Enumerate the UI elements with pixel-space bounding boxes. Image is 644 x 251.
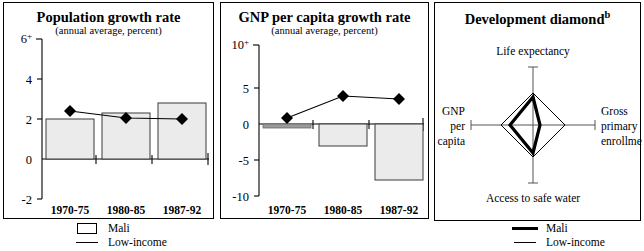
y-label-4: 4	[26, 73, 33, 87]
axis-label-gross-primary-enrollment: Gross	[601, 105, 628, 117]
legend-row-mali: Mali	[72, 221, 167, 235]
panel-gnp-per-capita-growth-rate: GNP per capita growth rate (annual avera…	[220, 2, 429, 219]
y-label-5: 5	[243, 82, 249, 96]
x-label-1987-92: 1987-92	[163, 204, 202, 216]
legend-development-diamond: Mali Low-income	[510, 221, 605, 249]
x-label-1970-75: 1970-75	[268, 204, 307, 216]
y-label-minus10: -10	[232, 190, 249, 204]
diamond-chart-plot: Life expectancy Access to safe water GNP…	[435, 3, 642, 222]
axis-label-life-expectancy: Life expectancy	[496, 45, 570, 58]
x-label-1980-85: 1980-85	[324, 204, 363, 216]
y-label-minus5: -5	[239, 154, 249, 168]
gnp-chart-plot: 10+ 5 0 -5 -10 1970-75 1980-85 1987-92	[221, 3, 430, 220]
population-chart-plot: 6+ 4 2 0 -2 1970-75 1980-85 1987-92	[4, 3, 215, 220]
line-swatch-icon	[72, 242, 102, 243]
y-label-6: 6+	[21, 31, 32, 46]
legend-label-low-income: Low-income	[108, 236, 167, 248]
y-label-0: 0	[26, 153, 32, 167]
legend-row-mali: Mali	[510, 221, 605, 235]
y-label-10: 10+	[231, 37, 249, 52]
thin-line-swatch-icon	[510, 242, 540, 243]
legend-bar-charts: Mali Low-income	[72, 221, 167, 249]
y-label-0: 0	[243, 118, 249, 132]
x-label-1970-75: 1970-75	[51, 204, 90, 216]
y-label-2: 2	[26, 113, 32, 127]
legend-label-mali: Mali	[108, 222, 130, 234]
x-label-1987-92: 1987-92	[380, 204, 419, 216]
x-label-1980-85: 1980-85	[107, 204, 146, 216]
legend-label-low-income: Low-income	[546, 236, 605, 248]
axis-label-access-to-safe-water: Access to safe water	[486, 192, 580, 204]
panel-population-growth-rate: Population growth rate (annual average, …	[3, 2, 214, 219]
axis-label-gross-primary-enrollment-line3: enrollment	[601, 135, 642, 147]
bar-1987-92	[375, 124, 423, 180]
bar-1970-75	[46, 119, 94, 159]
axis-label-gross-primary-enrollment-line2: primary	[601, 120, 638, 133]
legend-row-low-income: Low-income	[510, 235, 605, 249]
bar-1987-92	[158, 103, 206, 159]
axis-label-gnp-per-capita-line2: per	[450, 120, 465, 133]
y-label-minus2: -2	[22, 193, 32, 207]
panel-development-diamond: Development diamondb Life expectancy Acc…	[434, 2, 641, 221]
bar-1970-75	[263, 124, 311, 128]
low-income-markers	[281, 90, 405, 124]
axis-label-gnp-per-capita-line3: capita	[438, 135, 465, 148]
thick-line-swatch-icon	[510, 227, 540, 230]
axis-label-gnp-per-capita: GNP	[442, 105, 465, 117]
legend-label-mali: Mali	[546, 222, 568, 234]
bar-swatch-icon	[72, 223, 102, 234]
bar-1980-85	[319, 124, 367, 146]
legend-row-low-income: Low-income	[72, 235, 167, 249]
